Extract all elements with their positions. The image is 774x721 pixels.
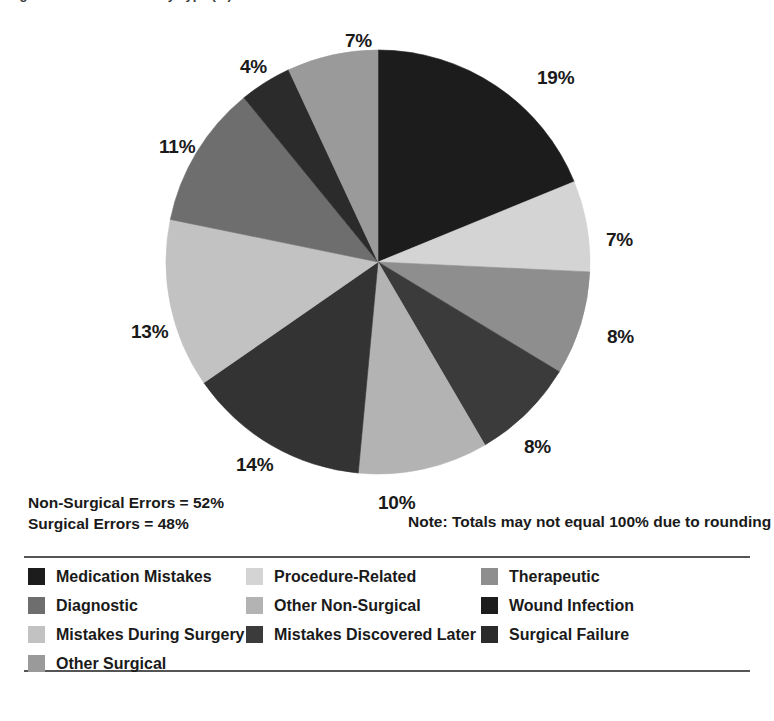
legend-color-swatch xyxy=(481,626,498,643)
rounding-note: Note: Totals may not equal 100% due to r… xyxy=(408,513,771,531)
pie-slice-value-label: 11% xyxy=(159,136,195,158)
legend: Medication MistakesDiagnosticMistakes Du… xyxy=(24,556,750,672)
non-surgical-errors-text: Non-Surgical Errors = 52% xyxy=(28,492,224,513)
legend-item[interactable]: Mistakes During Surgery xyxy=(28,626,245,643)
surgical-errors-text: Surgical Errors = 48% xyxy=(28,513,224,534)
legend-item[interactable]: Diagnostic xyxy=(28,597,138,614)
cropped-title-strip: Figure 1. Medical Errors by Type (%) xyxy=(0,0,774,14)
legend-item[interactable]: Other Non-Surgical xyxy=(246,597,421,614)
pie-slice-value-label: 7% xyxy=(606,229,633,251)
legend-item-label: Mistakes Discovered Later xyxy=(274,626,476,643)
pie-slice-value-label: 10% xyxy=(378,492,415,514)
legend-color-swatch xyxy=(481,568,498,585)
legend-color-swatch xyxy=(246,626,263,643)
pie-slice-value-label: 8% xyxy=(607,326,634,348)
legend-color-swatch xyxy=(28,655,45,672)
legend-item[interactable]: Medication Mistakes xyxy=(28,568,212,585)
legend-item[interactable]: Procedure-Related xyxy=(246,568,416,585)
legend-color-swatch xyxy=(246,597,263,614)
legend-item-label: Other Non-Surgical xyxy=(274,597,421,614)
pie-slice-value-label: 13% xyxy=(131,321,168,343)
legend-item[interactable]: Therapeutic xyxy=(481,568,600,585)
legend-color-swatch xyxy=(28,626,45,643)
pie-slices-group xyxy=(166,50,590,474)
pie-chart-svg xyxy=(0,14,774,484)
pie-slice-value-label: 4% xyxy=(240,56,267,78)
legend-color-swatch xyxy=(481,597,498,614)
legend-item[interactable]: Other Surgical xyxy=(28,655,166,672)
legend-item-label: Mistakes During Surgery xyxy=(56,626,245,643)
pie-slice-value-label: 7% xyxy=(345,30,372,52)
legend-item-label: Surgical Failure xyxy=(509,626,629,643)
legend-color-swatch xyxy=(28,568,45,585)
legend-item-label: Other Surgical xyxy=(56,655,166,672)
legend-grid: Medication MistakesDiagnosticMistakes Du… xyxy=(24,558,750,670)
legend-item-label: Medication Mistakes xyxy=(56,568,212,585)
legend-color-swatch xyxy=(28,597,45,614)
error-split-summary: Non-Surgical Errors = 52% Surgical Error… xyxy=(28,492,224,534)
legend-item-label: Therapeutic xyxy=(509,568,600,585)
legend-item-label: Procedure-Related xyxy=(274,568,416,585)
legend-item-label: Wound Infection xyxy=(509,597,634,614)
legend-item[interactable]: Surgical Failure xyxy=(481,626,629,643)
page-title: Figure 1. Medical Errors by Type (%) xyxy=(8,0,232,2)
legend-item-label: Diagnostic xyxy=(56,597,138,614)
pie-slice-value-label: 8% xyxy=(524,436,551,458)
pie-slice-value-label: 14% xyxy=(236,454,273,476)
pie-chart-area: 19%7%8%8%10%14%13%11%4%7% xyxy=(0,14,774,484)
legend-color-swatch xyxy=(246,568,263,585)
legend-item[interactable]: Mistakes Discovered Later xyxy=(246,626,476,643)
pie-slice-value-label: 19% xyxy=(537,67,574,89)
legend-item[interactable]: Wound Infection xyxy=(481,597,634,614)
